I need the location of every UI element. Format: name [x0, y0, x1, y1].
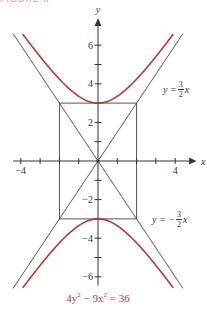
asymptote-lhs: y = −: [152, 214, 175, 225]
x-axis-arrow-icon: [189, 158, 196, 165]
caption-part: = 36: [107, 292, 130, 304]
y-axis-arrow-icon: [95, 18, 102, 26]
y-axis-label: y: [95, 4, 101, 15]
origin-point: [96, 159, 99, 162]
caption-part: 4y: [66, 292, 77, 304]
caption-part: − 9x: [81, 292, 104, 304]
fraction: 3 2: [178, 80, 184, 99]
asymptote-var: x: [185, 84, 189, 95]
hyperbola-plot: 4−4246−2−4−6xy: [0, 0, 207, 310]
fraction: 3 2: [176, 210, 182, 229]
fraction-numerator: 3: [179, 80, 183, 89]
y-tick-label: −6: [82, 271, 93, 282]
x-axis-label: x: [200, 156, 206, 167]
x-tick-label: −4: [15, 165, 26, 176]
fraction-denominator: 2: [179, 90, 183, 99]
y-tick-label: 6: [88, 40, 93, 51]
x-tick-label: 4: [173, 165, 178, 176]
asymptote-label-positive: y = 3 2 x: [163, 80, 189, 99]
y-tick-label: 4: [88, 78, 93, 89]
asymptote-lhs: y =: [163, 84, 177, 95]
asymptote-var: x: [183, 214, 187, 225]
y-tick-label: −2: [82, 194, 93, 205]
equation-caption: 4y2 − 9x2 = 36: [0, 291, 196, 304]
y-tick-label: 2: [88, 117, 93, 128]
fraction-numerator: 3: [177, 210, 181, 219]
y-tick-label: −4: [82, 233, 93, 244]
fraction-denominator: 2: [177, 220, 181, 229]
asymptote-label-negative: y = − 3 2 x: [152, 210, 187, 229]
